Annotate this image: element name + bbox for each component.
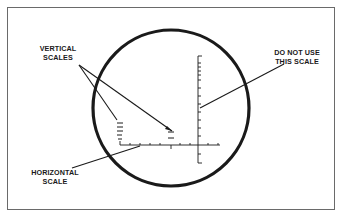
center-vertical-scale xyxy=(168,132,174,138)
label-line: DO NOT USE xyxy=(266,48,328,57)
label-line: SCALES xyxy=(30,53,86,62)
label-line: SCALE xyxy=(24,177,86,186)
label-line: VERTICAL xyxy=(30,44,86,53)
scope-circle xyxy=(93,30,249,186)
label-line: HORIZONTAL xyxy=(24,168,86,177)
label-line: THIS SCALE xyxy=(266,57,328,66)
left-vertical-scale xyxy=(117,123,123,139)
right-vertical-scale xyxy=(198,56,202,163)
leader-lines xyxy=(72,64,284,168)
do-not-use-label: DO NOT USE THIS SCALE xyxy=(266,48,328,66)
horizontal-scale-label: HORIZONTAL SCALE xyxy=(24,168,86,186)
vertical-scales-label: VERTICAL SCALES xyxy=(30,44,86,62)
